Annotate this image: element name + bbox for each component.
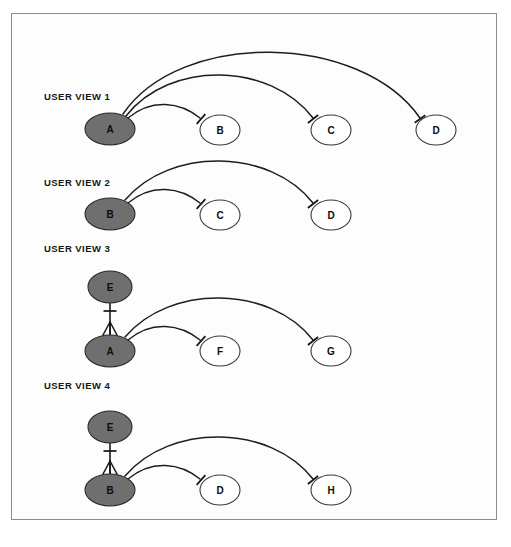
user-view-group-2: USER VIEW 2BCD: [44, 161, 351, 230]
crowsfoot-prong-left: [103, 461, 110, 474]
entity-label: C: [216, 210, 223, 221]
edge-curve[interactable]: [125, 298, 313, 340]
entity-label: E: [107, 282, 114, 293]
node-layer-2: BCD: [85, 198, 351, 230]
entity-node-d[interactable]: D: [200, 475, 240, 505]
entity-label: G: [327, 346, 335, 357]
entity-node-b[interactable]: B: [85, 198, 135, 230]
entity-label: B: [106, 485, 113, 496]
crowsfoot-prong-right: [110, 322, 117, 335]
view-label-1: USER VIEW 1: [44, 91, 110, 102]
entity-node-d[interactable]: D: [311, 200, 351, 230]
entity-label: A: [106, 124, 113, 135]
entity-label: D: [432, 125, 439, 136]
user-view-group-3: USER VIEW 3EAFG: [44, 243, 351, 367]
node-layer-4: EBDH: [85, 411, 351, 506]
entity-node-b[interactable]: B: [200, 115, 240, 145]
edge-curve[interactable]: [128, 104, 200, 118]
relationship-edge-E-A[interactable]: [103, 303, 117, 335]
entity-label: H: [327, 485, 334, 496]
entity-label: D: [327, 210, 334, 221]
edge-curve[interactable]: [128, 189, 200, 203]
edge-layer-1: [123, 52, 425, 124]
edge-curve[interactable]: [128, 326, 200, 340]
edge-curve[interactable]: [125, 437, 313, 479]
entity-label: F: [217, 346, 223, 357]
view-label-3: USER VIEW 3: [44, 243, 110, 254]
node-layer-3: EAFG: [85, 271, 351, 367]
entity-node-e[interactable]: E: [88, 411, 132, 443]
entity-node-g[interactable]: G: [311, 336, 351, 366]
entity-label: C: [327, 125, 334, 136]
node-layer-1: ABCD: [85, 113, 456, 145]
relationship-edge-E-B[interactable]: [103, 443, 117, 474]
entity-node-c[interactable]: C: [311, 115, 351, 145]
entity-node-h[interactable]: H: [311, 475, 351, 505]
entity-label: E: [107, 422, 114, 433]
entity-label: D: [216, 485, 223, 496]
crowsfoot-prong-left: [103, 322, 110, 335]
entity-node-c[interactable]: C: [200, 200, 240, 230]
user-view-group-4: USER VIEW 4EBDH: [44, 380, 351, 506]
er-diagram-canvas: USER VIEW 1ABCDUSER VIEW 2BCDUSER VIEW 3…: [0, 0, 511, 547]
edge-curve[interactable]: [125, 161, 313, 203]
crowsfoot-prong-right: [110, 461, 117, 474]
entity-node-f[interactable]: F: [200, 336, 240, 366]
edge-curve[interactable]: [128, 465, 200, 479]
view-label-4: USER VIEW 4: [44, 380, 110, 391]
cardinality-many-crowsfoot: [103, 322, 117, 335]
view-label-2: USER VIEW 2: [44, 177, 110, 188]
relationship-edge-A-F[interactable]: [128, 326, 205, 345]
cardinality-many-crowsfoot: [103, 461, 117, 474]
entity-node-a[interactable]: A: [85, 335, 135, 367]
entity-node-e[interactable]: E: [88, 271, 132, 303]
user-view-group-1: USER VIEW 1ABCD: [44, 52, 456, 145]
entity-label: B: [216, 125, 223, 136]
entity-node-a[interactable]: A: [85, 113, 135, 145]
entity-node-b[interactable]: B: [85, 474, 135, 506]
diagram-page: USER VIEW 1ABCDUSER VIEW 2BCDUSER VIEW 3…: [0, 0, 511, 547]
edge-curve[interactable]: [126, 75, 313, 118]
relationship-edge-B-C[interactable]: [128, 189, 205, 208]
entity-label: A: [106, 346, 113, 357]
entity-label: B: [106, 209, 113, 220]
entity-node-d[interactable]: D: [416, 115, 456, 145]
relationship-edge-B-D[interactable]: [128, 465, 205, 484]
relationship-edge-A-B[interactable]: [128, 104, 205, 123]
